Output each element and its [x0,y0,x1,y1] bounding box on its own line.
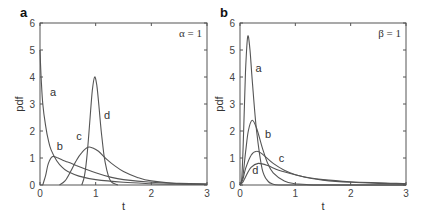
x-axis-label: t [122,200,125,212]
curve-d [240,163,406,185]
y-tick-label: 6 [29,18,35,29]
panel-b: b01234560123tpdfβ = 1abcd [213,5,409,212]
y-tick-label: 4 [229,72,235,83]
y-tick-label: 4 [29,72,35,83]
panel-a: a01234560123tpdfα = 1abcd [13,5,210,212]
y-tick-label: 6 [229,18,235,29]
y-tick-label: 1 [29,153,35,164]
parameter-annotation: α = 1 [179,27,202,39]
y-tick-label: 1 [229,153,235,164]
curve-label-b: b [265,128,271,140]
y-tick-label: 2 [229,126,235,137]
curve-label-d: d [252,164,258,176]
y-axis-label: pdf [13,95,25,111]
x-tick-label: 2 [348,188,354,199]
x-tick-label: 1 [293,188,299,199]
x-tick-label: 3 [204,188,210,199]
y-axis-label: pdf [213,95,225,111]
curve-label-d: d [104,109,110,121]
x-tick-label: 0 [37,188,43,199]
y-tick-label: 3 [29,99,35,110]
panel-label: b [220,5,228,20]
y-tick-label: 0 [29,180,35,191]
curve-label-c: c [279,152,285,164]
curve-label-b: b [57,140,63,152]
x-axis-label: t [321,200,324,212]
panel-label: a [20,5,28,20]
curve-d [82,77,118,185]
y-tick-label: 5 [29,45,35,56]
curve-b [43,156,207,185]
curve-a [40,50,207,185]
axes-frame [240,23,406,185]
x-tick-label: 3 [403,188,409,199]
x-tick-label: 2 [149,188,155,199]
y-tick-label: 3 [229,99,235,110]
curve-label-a: a [255,62,262,74]
y-tick-label: 5 [229,45,235,56]
parameter-annotation: β = 1 [378,27,401,39]
y-tick-label: 0 [229,180,235,191]
curve-label-a: a [50,86,57,98]
curve-label-c: c [76,130,82,142]
chart-figure: a01234560123tpdfα = 1abcd b01234560123tp… [0,0,423,219]
x-tick-label: 1 [93,188,99,199]
y-tick-label: 2 [29,126,35,137]
x-tick-label: 0 [237,188,243,199]
curve-c [60,147,208,185]
curve-a [240,36,406,185]
